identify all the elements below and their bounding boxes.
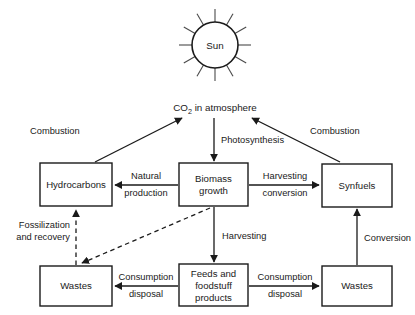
synfuels-label: Synfuels bbox=[339, 180, 376, 191]
edge-harvesting-conversion: Harvesting conversion bbox=[249, 171, 319, 198]
edge-natural-production: Natural production bbox=[115, 171, 178, 198]
consumption-disposal-right-label-line1: Consumption bbox=[258, 272, 313, 282]
wastes-right-node[interactable]: Wastes bbox=[322, 266, 392, 306]
fossilization-recovery-label-line1: Fossilization bbox=[19, 220, 70, 230]
hydrocarbons-label: Hydrocarbons bbox=[46, 179, 106, 190]
biomass-to-wastes-arrow bbox=[82, 208, 210, 263]
sun-label: Sun bbox=[206, 40, 223, 51]
diagram-canvas: Sun CO2 in atmosphere Hydrocarbons Bioma… bbox=[0, 0, 415, 315]
combustion-left-arrow bbox=[95, 118, 182, 162]
wastes-left-label: Wastes bbox=[60, 280, 92, 291]
edge-consumption-disposal-right: Consumption disposal bbox=[249, 272, 319, 299]
harvesting-label: Harvesting bbox=[222, 231, 266, 241]
consumption-disposal-left-label-line1: Consumption bbox=[119, 272, 174, 282]
natural-production-label-line2: production bbox=[124, 188, 167, 198]
edge-conversion: Conversion bbox=[357, 209, 411, 265]
co2-node: CO2 in atmosphere bbox=[173, 102, 257, 116]
combustion-right-label: Combustion bbox=[310, 126, 360, 136]
wastes-right-label: Wastes bbox=[341, 280, 373, 291]
hydrocarbons-node[interactable]: Hydrocarbons bbox=[40, 163, 112, 206]
edge-fossilization-recovery: Fossilization and recovery bbox=[16, 210, 76, 265]
fossilization-recovery-label-line2: and recovery bbox=[16, 232, 70, 242]
co2-label-main: CO bbox=[173, 102, 188, 113]
edge-consumption-disposal-left: Consumption disposal bbox=[115, 272, 178, 299]
feeds-foodstuff-label-line2: foodstuff bbox=[195, 280, 232, 291]
feeds-foodstuff-label-line1: Feeds and bbox=[191, 268, 236, 279]
wastes-left-node[interactable]: Wastes bbox=[40, 266, 112, 306]
sun-node: Sun bbox=[179, 9, 251, 81]
consumption-disposal-right-label-line2: disposal bbox=[268, 289, 302, 299]
biomass-growth-label-line2: growth bbox=[199, 185, 228, 196]
photosynthesis-label: Photosynthesis bbox=[221, 135, 284, 145]
synfuels-node[interactable]: Synfuels bbox=[322, 164, 392, 207]
edge-photosynthesis: Photosynthesis bbox=[214, 118, 284, 161]
harvesting-conversion-label-line1: Harvesting bbox=[263, 171, 307, 181]
edge-harvesting: Harvesting bbox=[214, 207, 266, 262]
edge-biomass-to-wastes bbox=[82, 208, 210, 263]
consumption-disposal-left-label-line2: disposal bbox=[129, 289, 163, 299]
edge-combustion-left: Combustion bbox=[30, 118, 182, 162]
natural-production-label-line1: Natural bbox=[131, 171, 161, 181]
carbon-cycle-diagram: Sun CO2 in atmosphere Hydrocarbons Bioma… bbox=[0, 0, 415, 315]
co2-label-rest: in atmosphere bbox=[192, 102, 257, 113]
conversion-label: Conversion bbox=[364, 233, 411, 243]
feeds-foodstuff-label-line3: products bbox=[195, 292, 232, 303]
combustion-left-label: Combustion bbox=[30, 126, 80, 136]
feeds-foodstuff-node[interactable]: Feeds and foodstuff products bbox=[179, 264, 248, 306]
harvesting-conversion-label-line2: conversion bbox=[263, 188, 308, 198]
svg-text:CO2 in atmosphere: CO2 in atmosphere bbox=[173, 102, 257, 116]
biomass-growth-node[interactable]: Biomass growth bbox=[179, 163, 248, 206]
biomass-growth-label-line1: Biomass bbox=[195, 173, 232, 184]
